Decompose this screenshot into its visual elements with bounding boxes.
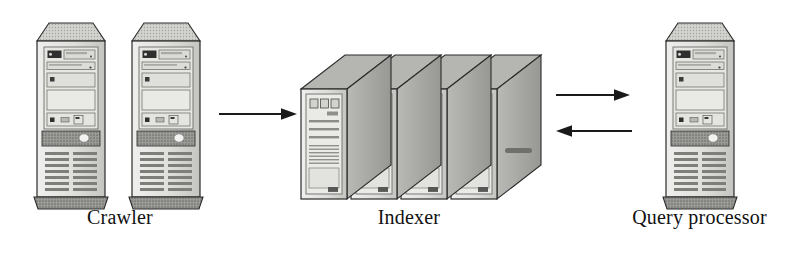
node-crawler <box>34 23 203 209</box>
indexer-side-vent <box>505 148 532 153</box>
node-query-processor <box>663 23 737 209</box>
node-indexer <box>301 55 541 199</box>
node-label-crawler: Crawler <box>0 206 240 229</box>
arrow-indexer-to-query <box>556 89 630 101</box>
query-processor-machine-1 <box>663 23 737 209</box>
node-label-query-processor: Query processor <box>600 206 799 229</box>
arrow-crawler-to-indexer <box>219 108 297 120</box>
crawler-machine-2 <box>129 23 203 209</box>
crawler-machine-1 <box>34 23 108 209</box>
diagram-canvas: Crawler Indexer Query processor <box>0 0 799 255</box>
arrow-query-to-indexer <box>556 125 632 137</box>
node-label-indexer: Indexer <box>300 206 518 229</box>
